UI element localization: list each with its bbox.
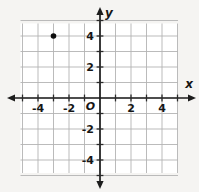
coordinate-plane-figure: -4-22442-2-4Oxy [0,0,199,192]
origin-label: O [86,100,95,113]
y-tick-label: -2 [82,123,94,136]
y-tick-label: 4 [86,30,94,43]
coordinate-plane: -4-22442-2-4Oxy [0,0,199,192]
x-tick-label: -4 [32,102,45,115]
y-axis-label: y [105,6,114,20]
y-axis-up-arrow-icon [96,7,103,15]
x-tick-label: 4 [158,102,166,115]
x-tick-label: 2 [127,102,135,115]
y-tick-label: 2 [86,61,94,74]
x-axis-right-arrow-icon [188,94,196,101]
y-tick-label: -4 [82,154,95,167]
x-axis-label: x [184,77,194,91]
x-axis-left-arrow-icon [7,94,15,101]
plotted-point [51,33,57,39]
x-tick-label: -2 [63,102,75,115]
y-axis-down-arrow-icon [96,181,103,189]
